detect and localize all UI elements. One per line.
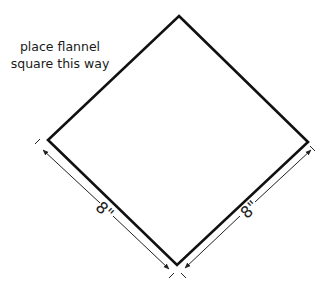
diagram-canvas: 8" 8" (0, 0, 333, 284)
flannel-square (48, 16, 308, 265)
dimension-right: 8" (181, 146, 315, 278)
dimension-label-left: 8" (92, 197, 118, 223)
dimension-label-right: 8" (236, 196, 262, 222)
dimension-left: 8" (35, 139, 174, 278)
